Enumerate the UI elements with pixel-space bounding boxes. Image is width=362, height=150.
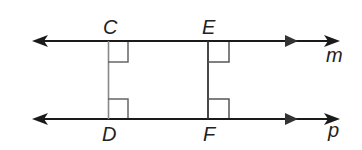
right-angle-mark-e: [208, 42, 229, 62]
label-line-m: m: [326, 44, 343, 66]
label-point-c: C: [103, 16, 118, 38]
line-m: [32, 35, 340, 47]
label-point-e: E: [202, 16, 216, 38]
line-p: [32, 113, 340, 125]
parallel-marker-icon: [285, 113, 298, 125]
right-angle-mark-d: [108, 99, 128, 118]
label-point-f: F: [203, 123, 217, 145]
diagram-canvas: C E D F m p: [0, 0, 362, 150]
parallel-marker-icon: [285, 35, 298, 47]
label-point-d: D: [102, 123, 116, 145]
right-angle-mark-f: [208, 99, 229, 118]
label-line-p: p: [327, 119, 339, 141]
right-angle-mark-c: [108, 42, 128, 62]
